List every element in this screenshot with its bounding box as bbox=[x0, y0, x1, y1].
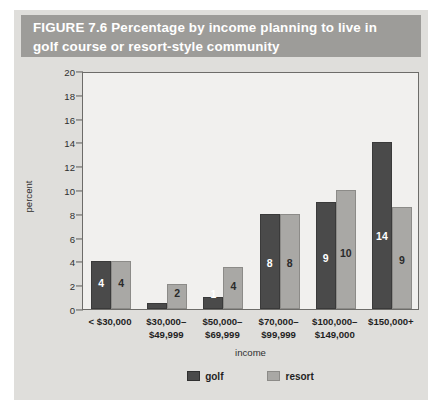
bar-value-label: 9 bbox=[316, 252, 336, 264]
y-axis-tick-label: 8 bbox=[21, 209, 82, 220]
bar-value-label: 1 bbox=[203, 288, 223, 300]
bar-group: 2 bbox=[139, 73, 195, 309]
bar-value-label: 4 bbox=[223, 280, 243, 292]
legend-label: golf bbox=[205, 371, 223, 382]
plot-area: 4421488910149 bbox=[82, 72, 419, 310]
bar-golf[interactable] bbox=[147, 303, 167, 309]
figure-root: FIGURE 7.6 Percentage by income planning… bbox=[0, 0, 442, 416]
bar-golf[interactable] bbox=[372, 142, 392, 309]
bar-group: 910 bbox=[308, 73, 364, 309]
x-axis-title: income bbox=[82, 347, 419, 358]
bar-value-label: 4 bbox=[91, 277, 111, 289]
y-axis-tick-label: 6 bbox=[21, 233, 82, 244]
bar-value-label: 8 bbox=[280, 257, 300, 269]
bar-value-label: 10 bbox=[336, 247, 356, 259]
bar-value-label: 8 bbox=[260, 257, 280, 269]
y-axis-tick-label: 20 bbox=[21, 67, 82, 78]
bars-layer: 4421488910149 bbox=[83, 73, 418, 309]
bar-group: 149 bbox=[364, 73, 420, 309]
bar-value-label: 4 bbox=[111, 277, 131, 289]
bar-value-label: 14 bbox=[372, 230, 392, 242]
legend-swatch-icon bbox=[267, 371, 280, 381]
legend-item-golf[interactable]: golf bbox=[187, 371, 223, 382]
figure-card: FIGURE 7.6 Percentage by income planning… bbox=[14, 10, 428, 400]
x-axis-tick-label: $150,000+ bbox=[355, 316, 427, 329]
legend-item-resort[interactable]: resort bbox=[267, 371, 313, 382]
bar-group: 44 bbox=[83, 73, 139, 309]
y-axis-tick-label: 2 bbox=[21, 281, 82, 292]
bar-group: 88 bbox=[252, 73, 308, 309]
figure-title: FIGURE 7.6 Percentage by income planning… bbox=[33, 19, 417, 56]
y-axis-tick-label: 4 bbox=[21, 257, 82, 268]
bar-group: 14 bbox=[195, 73, 251, 309]
y-axis-tick-label: 0 bbox=[21, 305, 82, 316]
bar-value-label: 2 bbox=[167, 287, 187, 299]
y-axis-tick-label: 12 bbox=[21, 162, 82, 173]
y-axis-tick-label: 14 bbox=[21, 138, 82, 149]
bar-value-label: 9 bbox=[392, 254, 412, 266]
y-axis-tick-label: 10 bbox=[21, 186, 82, 197]
legend-swatch-icon bbox=[187, 371, 200, 381]
chart-plot-wrapper: percent 02468101214161820 4421488910149 … bbox=[21, 60, 421, 396]
chart-legend: golfresort bbox=[82, 368, 419, 384]
legend-label: resort bbox=[285, 371, 313, 382]
y-axis-tick-label: 16 bbox=[21, 114, 82, 125]
y-axis-tick-label: 18 bbox=[21, 90, 82, 101]
figure-header-band: FIGURE 7.6 Percentage by income planning… bbox=[21, 15, 421, 57]
